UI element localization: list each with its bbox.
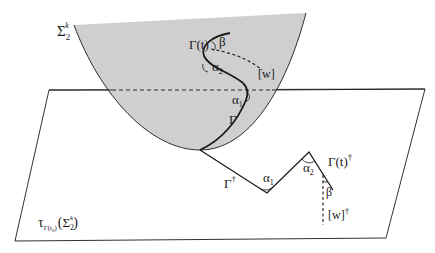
label-beta-plane: β [326, 185, 332, 199]
label-gamma-t: Γ(t) [189, 37, 209, 52]
surface-label: Σ2k [57, 21, 70, 42]
label-w-surface: [w] [258, 67, 275, 81]
paraboloid-tangent-plane-diagram: Σ2k Γ(t) β α2 [w] α1 Γ Γ† α1 α2 Γ(t)† β … [0, 0, 435, 253]
label-gamma-surface: Γ [229, 112, 237, 127]
label-beta-surface: β [219, 34, 226, 49]
